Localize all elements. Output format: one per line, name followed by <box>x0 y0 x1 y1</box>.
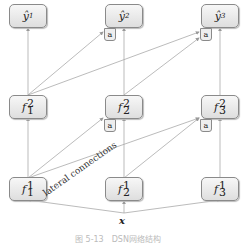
layer2-node-f23: f 23 <box>201 95 239 119</box>
aggregator-y3: a <box>200 28 212 41</box>
layer2-node-f22: f 22 <box>105 95 143 119</box>
output-node-y3: ŷ3 <box>201 4 239 28</box>
node-subscript: 2 <box>123 107 130 114</box>
layer2-node-f21: f 21 <box>9 95 47 119</box>
node-symbol: f <box>214 183 218 196</box>
figure-caption: 图 5-13 DSN网络结构 <box>75 233 161 244</box>
aggregator-y2: a <box>104 28 116 41</box>
node-subscript: 1 <box>29 12 33 20</box>
node-subscript: 2 <box>125 12 129 20</box>
node-subscript: 3 <box>219 189 226 196</box>
node-symbol: f <box>118 101 122 114</box>
layer1-node-f13: f 13 <box>201 177 239 201</box>
node-subscript: 3 <box>219 107 226 114</box>
node-symbol: f <box>22 183 26 196</box>
node-symbol: f <box>214 101 218 114</box>
aggregator-f23: a <box>200 119 212 132</box>
node-symbol: f <box>118 183 122 196</box>
node-subscript: 1 <box>27 189 34 196</box>
output-node-y1: ŷ1 <box>9 4 47 28</box>
node-subscript: 3 <box>221 12 225 20</box>
layer1-node-f12: f 12 <box>105 177 143 201</box>
node-subscript: 1 <box>27 107 34 114</box>
node-subscript: 2 <box>123 189 130 196</box>
output-node-y2: ŷ2 <box>105 4 143 28</box>
aggregator-f22: a <box>104 119 116 132</box>
node-symbol: f <box>22 101 26 114</box>
input-label: x <box>119 215 125 226</box>
